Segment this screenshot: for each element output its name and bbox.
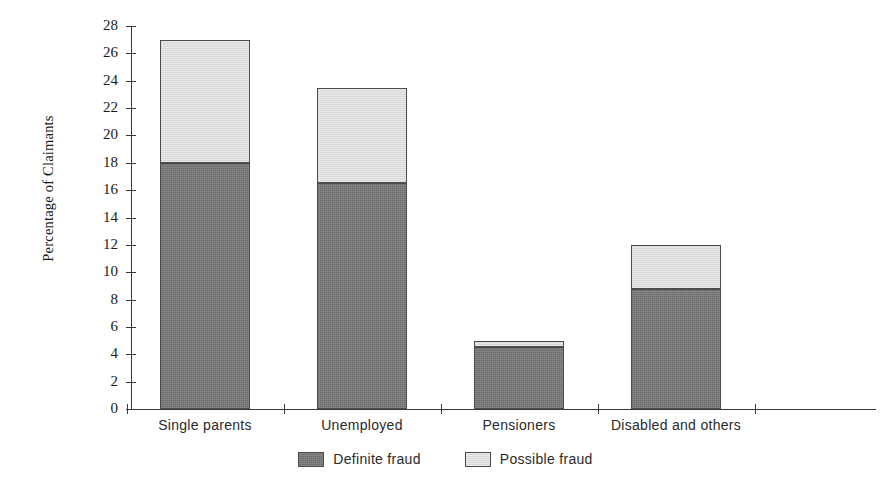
x-axis-line bbox=[131, 409, 876, 410]
bar-stack bbox=[317, 26, 407, 409]
bar-segment-possible-fraud bbox=[317, 88, 407, 184]
y-axis-tick-label: 4 bbox=[78, 346, 118, 361]
chart-legend: Definite fraudPossible fraud bbox=[0, 451, 891, 467]
bar-stack bbox=[631, 26, 721, 409]
legend-swatch-icon bbox=[465, 452, 491, 467]
y-axis-tick-label: 22 bbox=[78, 100, 118, 115]
y-axis-tick-label: 2 bbox=[78, 374, 118, 389]
stacked-bar-chart: Percentage of Claimants 0246810121416182… bbox=[0, 0, 891, 496]
legend-swatch-icon bbox=[298, 452, 324, 467]
y-axis-tick-label: 26 bbox=[78, 45, 118, 60]
bar-segment-definite-fraud bbox=[631, 289, 721, 409]
bar-segment-possible-fraud bbox=[474, 341, 564, 348]
y-axis-tick-label: 20 bbox=[78, 127, 118, 142]
y-axis-tick-label: 6 bbox=[78, 319, 118, 334]
legend-item: Definite fraud bbox=[298, 451, 420, 467]
bar-segment-possible-fraud bbox=[631, 245, 721, 289]
y-axis-tick-label: 0 bbox=[78, 401, 118, 416]
legend-label: Definite fraud bbox=[333, 451, 420, 467]
bar-segment-definite-fraud bbox=[160, 163, 250, 409]
bar-stack bbox=[160, 26, 250, 409]
y-axis-tick-label: 28 bbox=[78, 18, 118, 33]
legend-item: Possible fraud bbox=[465, 451, 593, 467]
y-axis-title: Percentage of Claimants bbox=[40, 79, 57, 299]
y-axis-tick-label: 8 bbox=[78, 292, 118, 307]
y-axis-tick-label: 18 bbox=[78, 155, 118, 170]
y-axis-tick bbox=[126, 409, 136, 410]
bar-stack bbox=[474, 26, 564, 409]
x-axis-tick bbox=[127, 404, 128, 414]
legend-label: Possible fraud bbox=[500, 451, 593, 467]
y-axis-tick-label: 24 bbox=[78, 73, 118, 88]
y-axis-tick-label: 16 bbox=[78, 182, 118, 197]
y-axis-tick-label: 14 bbox=[78, 210, 118, 225]
y-axis-tick-label: 10 bbox=[78, 264, 118, 279]
bar-segment-definite-fraud bbox=[317, 183, 407, 409]
x-axis-label: Disabled and others bbox=[581, 417, 771, 433]
bar-segment-definite-fraud bbox=[474, 347, 564, 409]
bar-segment-possible-fraud bbox=[160, 40, 250, 163]
y-axis-tick-label: 12 bbox=[78, 237, 118, 252]
plot-area bbox=[131, 26, 876, 409]
